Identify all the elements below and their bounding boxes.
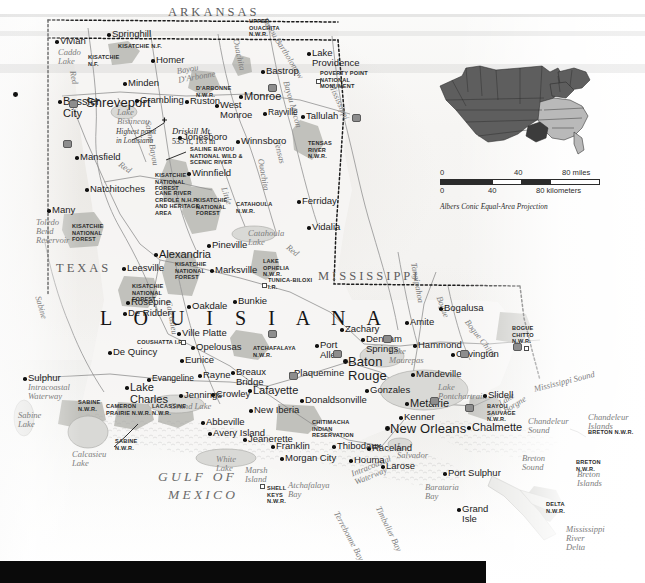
city-marker-pineville <box>207 244 211 248</box>
city-marker-west-monroe <box>215 104 219 108</box>
city-label-evangeline: Evangeline <box>152 374 194 383</box>
water-label-catahoula-lake: CatahoulaLake <box>248 229 284 247</box>
city-marker-ferriday <box>297 200 301 204</box>
interstate-shield-6 <box>333 350 342 358</box>
locator-svg <box>432 56 610 160</box>
scale-miles-tick-40: 40 <box>514 168 522 177</box>
city-marker-tallulah <box>301 115 305 119</box>
city-label-pineville: Pineville <box>212 240 247 250</box>
interstate-shield-5 <box>289 372 298 380</box>
scale-bar: 0 40 80 miles 0 40 80 kilometers Albers … <box>440 168 608 211</box>
city-label-amite: Amite <box>410 317 434 327</box>
city-marker-baton-rouge <box>343 359 348 364</box>
scale-miles-ticks: 0 40 80 miles <box>440 168 608 179</box>
city-marker-franklin <box>271 445 275 449</box>
water-label-mississippi-river-delta: MississippiRiverDelta <box>566 525 605 552</box>
city-marker-vidalia <box>307 226 311 230</box>
city-marker-amite <box>405 321 409 325</box>
site-marker-2 <box>262 283 267 288</box>
city-marker-avery-island <box>208 432 212 436</box>
state-label-arkansas: ARKANSAS <box>168 6 259 19</box>
city-label-alexandria: Alexandria <box>159 249 211 261</box>
site-marker-4 <box>260 484 265 489</box>
water-label-toledo-bend-reservoir: ToledoBendReservoir <box>36 218 69 245</box>
city-marker-bunkie <box>233 300 237 304</box>
left-edge-fade <box>0 0 80 583</box>
interstate-shield-12 <box>268 330 277 338</box>
water-label-sabine-lake: SabineLake <box>18 411 41 429</box>
city-marker-vivian <box>55 40 59 44</box>
city-label-bunkie: Bunkie <box>238 296 267 306</box>
city-marker-evangeline <box>147 378 151 382</box>
city-label-crowley: Crowley <box>216 389 250 399</box>
city-marker-sulphur <box>23 377 27 381</box>
city-label-vivian: Vivian <box>60 36 86 46</box>
city-label-lafayette: Lafayette <box>253 385 298 397</box>
city-marker-crowley <box>211 393 215 397</box>
city-marker-rayville <box>263 112 267 116</box>
protected-area-label-lake-ophelia-n-w-r: LAKEOPHELIAN.W.R. <box>263 258 289 278</box>
scale-miles-tick-80: 80 miles <box>562 168 590 177</box>
city-marker-de-ridder <box>123 312 127 316</box>
state-label-mississippi: MISSISSIPPI <box>318 270 420 283</box>
city-label-bogalusa: Bogalusa <box>444 303 484 313</box>
city-label-eunice: Eunice <box>185 355 214 365</box>
site-marker-5 <box>524 346 529 351</box>
water-label-barataria-bay: BaratariaBay <box>425 483 459 501</box>
protected-area-label-tensas-river-n-w-r: TENSASRIVERN.W.R. <box>308 140 332 160</box>
city-marker-donaldsonville <box>300 399 304 403</box>
interstate-shield-2 <box>63 140 72 148</box>
site-marker-1 <box>316 79 321 84</box>
city-label-de-ridder: De Ridder <box>128 308 171 318</box>
water-label-breton-sound: BretonSound <box>522 454 545 472</box>
city-marker-raceland <box>367 447 371 451</box>
city-marker-natchitoches <box>85 188 89 192</box>
city-marker-new-iberia <box>249 409 253 413</box>
protected-area-label-upper-ouachita-n-w-r: UPPEROUACHITAN.W.R. <box>249 18 280 38</box>
city-label-oakdale: Oakdale <box>192 301 227 311</box>
scale-km-tick-0: 0 <box>440 186 444 195</box>
protected-area-label-bogue-chitto-n-w-r: BOGUECHITTON.W.R. <box>512 325 534 345</box>
projection-label: Albers Conic Equal-Area Projection <box>440 202 608 211</box>
city-label-opelousas: Opelousas <box>196 342 241 352</box>
protected-area-label-catahoula-n-w-r: CATAHOULAN.W.R. <box>236 201 272 214</box>
city-marker-mansfield <box>75 156 79 160</box>
city-marker-new-orleans <box>385 426 390 431</box>
city-label-leesville: Leesville <box>127 263 164 273</box>
scale-seg-3 <box>521 180 551 184</box>
state-label-texas: TEXAS <box>56 262 111 275</box>
city-label-gonzales: Gonzales <box>370 385 410 395</box>
city-marker-monroe <box>239 95 243 99</box>
city-label-abbeville: Abbeville <box>206 417 245 427</box>
city-label-bossier-city: BossierCity <box>63 96 100 119</box>
city-label-ville-platte: Ville Platte <box>182 328 227 338</box>
city-label-rayville: Rayville <box>268 108 298 117</box>
city-marker-jennings <box>179 394 183 398</box>
protected-area-label-sabine-n-w-r: SABINEN.W.R. <box>78 399 100 412</box>
city-label-slidell: Slidell <box>488 390 513 400</box>
city-marker-covington <box>451 353 455 357</box>
city-marker-de-quincy <box>108 351 112 355</box>
city-marker-denham-springs <box>361 338 365 342</box>
interstate-shield-10 <box>430 397 439 405</box>
city-marker-rosepine <box>126 301 130 305</box>
city-label-lake-charles: LakeCharles <box>130 382 168 405</box>
city-marker-homer <box>151 59 155 63</box>
city-label-port-sulphur: Port Sulphur <box>448 468 501 478</box>
annotation-driskill-mountain: Driskill Mt.535 ft, 163 m <box>172 126 215 147</box>
city-marker-thibodaux <box>332 445 336 449</box>
city-marker-winnfield <box>187 172 191 176</box>
city-marker-hammond <box>413 344 417 348</box>
city-marker-oakdale <box>187 305 191 309</box>
protected-area-label-breton-n-w-r: BRETONN.W.R. <box>576 459 601 472</box>
city-marker-port-sulphur <box>443 472 447 476</box>
interstate-shield-1 <box>69 100 78 108</box>
city-marker-kenner <box>399 416 403 420</box>
city-marker-houma <box>349 459 353 463</box>
protected-area-label-breton-n-w-r: BRETON N.W.R. <box>588 429 633 436</box>
city-marker-bastrop <box>261 70 265 74</box>
city-label-chalmette: Chalmette <box>472 422 522 434</box>
city-label-tallulah: Tallulah <box>306 111 338 121</box>
city-marker-springhill <box>107 33 111 37</box>
city-label-minden: Minden <box>128 78 159 88</box>
